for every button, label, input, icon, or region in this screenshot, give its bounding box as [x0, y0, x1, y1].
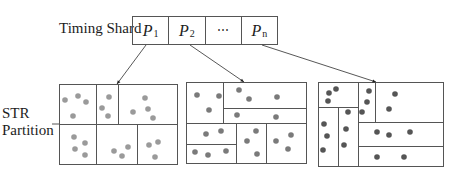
data-point [83, 99, 89, 105]
data-point [364, 99, 370, 105]
data-point [345, 109, 351, 115]
data-point [386, 132, 392, 138]
data-point [343, 126, 349, 132]
data-point [105, 113, 111, 119]
partition-box-3 [319, 83, 444, 167]
data-point [119, 153, 125, 159]
data-point [203, 131, 209, 137]
data-point [324, 133, 330, 139]
data-point [125, 144, 131, 150]
shard-arrow-1 [117, 45, 146, 84]
shard-arrow-3 [262, 45, 376, 82]
data-point [152, 154, 158, 160]
data-point [216, 93, 222, 99]
data-point [62, 97, 68, 103]
data-point [82, 152, 88, 158]
data-point [205, 152, 211, 158]
data-point [244, 138, 250, 144]
data-point [150, 115, 156, 121]
data-point [333, 86, 339, 92]
data-point [218, 128, 224, 134]
data-point [194, 92, 200, 98]
data-point [99, 105, 105, 111]
data-point [145, 106, 151, 112]
data-point [366, 88, 372, 94]
str-partition-diagram [0, 0, 450, 174]
data-point [70, 113, 76, 119]
data-point [71, 134, 77, 140]
data-point [72, 146, 78, 152]
data-point [223, 148, 229, 154]
data-point [155, 139, 161, 145]
data-point [359, 109, 365, 115]
data-point [285, 146, 291, 152]
arrowhead-icon [372, 79, 376, 82]
data-point [325, 98, 331, 104]
data-point [106, 94, 112, 100]
data-point [246, 96, 252, 102]
data-point [374, 129, 380, 135]
data-point [326, 90, 332, 96]
data-point [142, 95, 148, 101]
data-point [273, 138, 279, 144]
data-point [320, 147, 326, 153]
data-point [401, 154, 407, 160]
data-point [111, 148, 117, 154]
data-point [386, 106, 392, 112]
data-point [374, 154, 380, 160]
data-point [288, 132, 294, 138]
data-point [146, 142, 152, 148]
data-point [234, 112, 240, 118]
data-point [75, 93, 81, 99]
data-point [206, 107, 212, 113]
shard-arrow-2 [190, 45, 244, 82]
data-point [192, 149, 198, 155]
data-point [253, 128, 259, 134]
data-point [273, 114, 279, 120]
data-point [254, 151, 260, 157]
data-point [274, 94, 280, 100]
data-point [236, 87, 242, 93]
data-point [392, 91, 398, 97]
arrowhead-icon [240, 79, 244, 82]
data-point [82, 140, 88, 146]
data-point [130, 109, 136, 115]
data-point [341, 142, 347, 148]
data-point [407, 129, 413, 135]
data-point [321, 121, 327, 127]
